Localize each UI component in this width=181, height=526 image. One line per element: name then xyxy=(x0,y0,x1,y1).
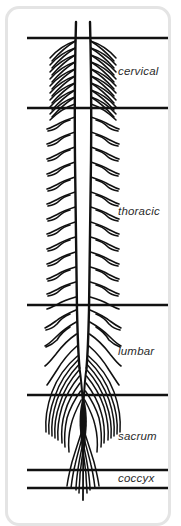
root-right xyxy=(90,282,119,294)
root-right xyxy=(90,267,119,279)
root-right xyxy=(91,162,119,174)
root-left xyxy=(47,237,75,249)
root-left-ganglion xyxy=(48,135,70,146)
root-left xyxy=(47,282,76,294)
root-left xyxy=(47,207,75,219)
root-left xyxy=(47,162,75,174)
region-label-coccyx: coccyx xyxy=(118,472,154,484)
root-left xyxy=(47,222,75,234)
root-right xyxy=(91,207,119,219)
root-right xyxy=(91,252,120,264)
root-right xyxy=(91,147,119,159)
root-left xyxy=(47,297,76,309)
root-right-ganglion xyxy=(96,120,118,131)
root-left-ganglion xyxy=(48,285,70,296)
root-left-ganglion xyxy=(48,120,70,131)
root-left-ganglion xyxy=(48,165,70,176)
root-left xyxy=(47,132,75,144)
root-right xyxy=(90,297,119,309)
root-right-ganglion xyxy=(96,285,118,296)
cord-strand-left xyxy=(75,22,80,368)
region-label-lumbar: lumbar xyxy=(118,345,154,357)
root-right-ganglion xyxy=(96,255,118,266)
root-left-ganglion xyxy=(48,225,70,236)
root-right-ganglion xyxy=(96,240,118,251)
root-left-ganglion xyxy=(48,255,70,266)
root-right xyxy=(91,237,119,249)
root-right xyxy=(91,132,119,144)
root-left xyxy=(47,177,75,189)
root-left xyxy=(47,267,76,279)
root-right-ganglion xyxy=(96,327,120,347)
thoracic-nerve-roots xyxy=(47,117,119,309)
root-left-ganglion xyxy=(48,180,70,191)
root-right-ganglion xyxy=(96,225,118,236)
root-left-ganglion xyxy=(46,327,70,347)
root-left-ganglion xyxy=(48,195,70,206)
root-right-ganglion xyxy=(96,270,118,281)
root-left xyxy=(47,147,75,159)
root-right xyxy=(91,222,119,234)
region-label-sacrum: sacrum xyxy=(118,430,157,442)
lumbar-nerve-roots xyxy=(45,310,121,385)
root-left-ganglion xyxy=(48,270,70,281)
root-left-ganglion xyxy=(48,210,70,221)
region-label-thoracic: thoracic xyxy=(118,205,160,217)
root-left-ganglion xyxy=(48,150,70,161)
root-left-ganglion xyxy=(48,240,70,251)
root-left xyxy=(47,252,76,264)
cord-strand-right xyxy=(87,22,92,368)
root-right-ganglion xyxy=(96,195,118,206)
root-left xyxy=(47,192,75,204)
root-right-ganglion xyxy=(96,180,118,191)
root-right xyxy=(91,192,119,204)
root-right-ganglion xyxy=(96,165,118,176)
root-right-ganglion xyxy=(96,135,118,146)
root-right xyxy=(91,177,119,189)
region-label-cervical: cervical xyxy=(118,65,159,77)
root-right-ganglion xyxy=(96,210,118,221)
root-right-ganglion xyxy=(96,150,118,161)
